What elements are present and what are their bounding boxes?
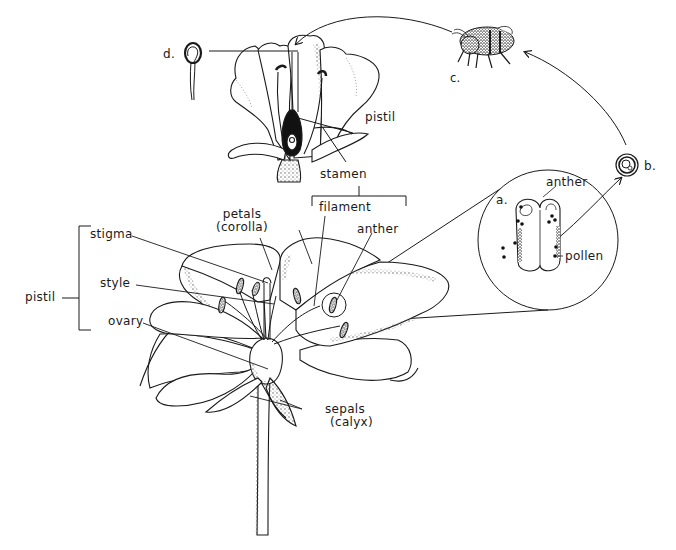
label-d: d. [163, 48, 175, 61]
label-filament: filament [319, 201, 371, 214]
label-pistil-left: pistil [25, 291, 55, 304]
pollen-grain [616, 154, 638, 176]
label-petals: petals (corolla) [207, 208, 277, 234]
label-anther-inset: anther [546, 176, 587, 189]
label-pollen: pollen [565, 250, 603, 263]
flower-pollination-diagram: d. c. b. a. pistil stamen filament anthe… [0, 0, 676, 550]
label-petals-line1: petals [223, 207, 261, 221]
label-ovary: ovary [108, 315, 143, 328]
label-c: c. [450, 72, 461, 85]
bee-illustration [452, 26, 514, 68]
pistil-bracket [62, 226, 91, 330]
label-sepals: sepals (calyx) [325, 403, 373, 429]
label-pistil-cross-section: pistil [365, 111, 395, 124]
arrow-pollen-to-bee [525, 52, 626, 145]
label-a: a. [496, 194, 508, 207]
diagram-artwork [0, 0, 676, 550]
label-b: b. [644, 160, 656, 173]
label-stamen: stamen [320, 168, 367, 181]
label-sepals-line1: sepals [325, 402, 365, 416]
whole-flower [140, 238, 449, 535]
label-sepals-line2: (calyx) [325, 415, 373, 429]
label-stigma: stigma [90, 228, 133, 241]
cross-section-flower [228, 35, 379, 182]
label-style: style [100, 277, 130, 290]
label-petals-line2: (corolla) [216, 220, 268, 234]
label-anther: anther [357, 223, 398, 236]
